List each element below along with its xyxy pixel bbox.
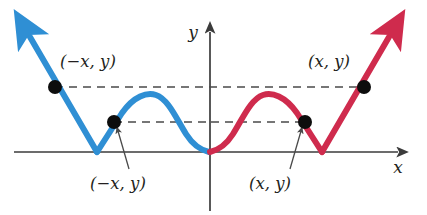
graph-canvas: (−x, y) (x, y) (−x, y) (x, y) y x <box>0 0 427 215</box>
label-lower-right: (x, y) <box>249 174 291 193</box>
point-upper-right <box>357 80 371 94</box>
label-upper-right: (x, y) <box>308 52 350 71</box>
label-upper-left: (−x, y) <box>60 52 116 71</box>
leader-line-right <box>290 131 301 169</box>
point-lower-right <box>298 115 312 129</box>
x-axis-label: x <box>393 157 403 177</box>
label-lower-left: (−x, y) <box>90 174 146 193</box>
figure-container: (−x, y) (x, y) (−x, y) (x, y) y x <box>0 0 427 215</box>
point-upper-left <box>48 80 62 94</box>
y-axis-label: y <box>187 22 198 42</box>
point-lower-left <box>107 115 121 129</box>
leader-line-left <box>118 131 129 169</box>
